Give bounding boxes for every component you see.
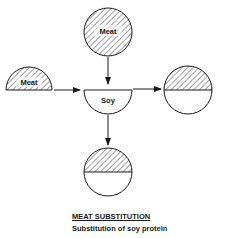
node-meat-half: Meat bbox=[6, 67, 52, 90]
node-meat-whole: Meat bbox=[84, 8, 132, 56]
soy-label: Soy bbox=[101, 96, 116, 105]
node-result-right bbox=[164, 66, 212, 114]
meat-substitution-diagram: Meat Meat Soy bbox=[0, 0, 226, 238]
meat-label-top: Meat bbox=[99, 27, 117, 36]
caption-subtitle: Substitution of soy protein bbox=[72, 224, 167, 233]
meat-label-left: Meat bbox=[20, 78, 38, 87]
node-result-bottom bbox=[84, 148, 132, 196]
caption-title: MEAT SUBSTITUTION bbox=[72, 212, 150, 221]
node-soy: Soy bbox=[84, 90, 132, 114]
